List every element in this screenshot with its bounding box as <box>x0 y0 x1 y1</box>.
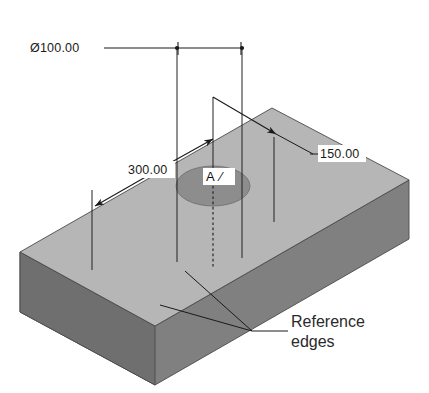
diameter-label: Ø100.00 <box>30 41 79 55</box>
technical-drawing-canvas: Ø100.00 300.00 150.00 A ⁄ <box>0 0 429 393</box>
hole-label: A <box>206 169 215 184</box>
right-offset-label: 150.00 <box>320 147 359 161</box>
diameter-dimension: Ø100.00 <box>26 39 242 57</box>
reference-edges-line1: Reference <box>291 313 365 330</box>
reference-edges-line2: edges <box>291 333 335 350</box>
left-offset-label: 300.00 <box>128 163 167 177</box>
hole-label-group: A ⁄ <box>203 168 235 185</box>
isometric-block-drawing: Ø100.00 300.00 150.00 A ⁄ <box>0 0 429 393</box>
